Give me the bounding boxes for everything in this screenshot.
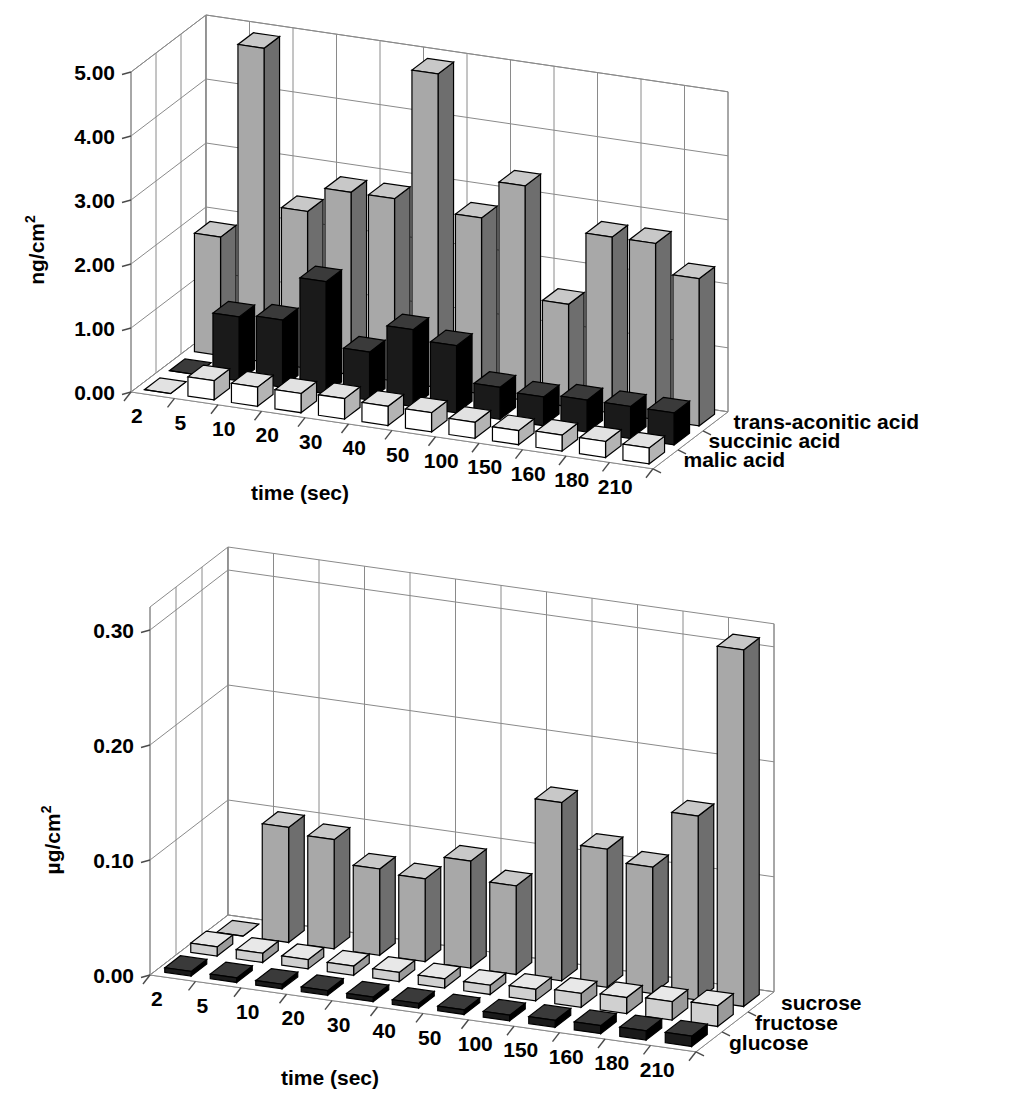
bar-face <box>362 402 388 425</box>
top-xtick-label-text: 150 <box>467 455 502 478</box>
bottom-xtick-label: 180 <box>594 1051 629 1074</box>
bar-face <box>623 444 649 464</box>
bottom-xtick <box>371 1007 378 1016</box>
bar-side <box>516 874 532 975</box>
bar-side <box>326 270 342 394</box>
bar-bottom-sucrose-5 <box>262 812 304 943</box>
bottom-ytick-label: 0.20 <box>93 734 134 757</box>
bar-top-trans-aconitic-acid-100 <box>499 170 541 400</box>
top-xtick-label-text: 10 <box>212 417 235 440</box>
bar-side <box>413 318 429 407</box>
top-ytick-label: 3.00 <box>74 189 115 212</box>
bottom-xtick <box>280 994 287 1003</box>
top-ytick <box>122 136 131 139</box>
top-xtick-label: 150 <box>467 455 502 478</box>
top-xtick-label-text: 100 <box>424 449 459 472</box>
bar-face <box>449 418 475 438</box>
bar-face <box>444 857 470 968</box>
bar-face <box>262 824 288 943</box>
bar-face <box>499 182 525 400</box>
bottom-ytick <box>141 630 150 633</box>
bar-side <box>612 225 628 413</box>
bottom-xtick <box>689 1052 696 1061</box>
bar-face <box>300 278 326 394</box>
bottom-xtick <box>598 1039 605 1048</box>
top-xtick <box>472 443 479 452</box>
bottom-xtick-label-text: 150 <box>503 1038 538 1061</box>
bottom-xtick-label: 30 <box>327 1013 350 1036</box>
bar-side <box>289 815 305 942</box>
bar-face <box>536 431 562 451</box>
bar-bottom-sucrose-10 <box>308 824 350 949</box>
bar-side <box>656 232 672 420</box>
bar-side <box>457 334 473 413</box>
top-xtick-label: 210 <box>598 475 633 498</box>
top-xtick <box>298 418 305 427</box>
bottom-ytick-label: 0.10 <box>93 849 134 872</box>
bottom-yaxis-title: µg/cm2 <box>38 805 64 874</box>
bottom-ytick-label: 0.00 <box>93 964 134 987</box>
bottom-xtick <box>553 1033 560 1042</box>
top-xtick-label: 2 <box>131 404 143 427</box>
bar-face <box>672 812 698 1000</box>
figure-page: 0.001.002.003.004.005.00ng/cm22510203040… <box>0 0 1009 1107</box>
bar-side <box>471 849 487 968</box>
top-ytick-label: 4.00 <box>74 125 115 148</box>
top-xtick-label: 50 <box>386 443 409 466</box>
top-xtick-label: 5 <box>174 411 186 434</box>
bar-face <box>555 990 581 1008</box>
top-yaxis-title: ng/cm2 <box>22 215 48 285</box>
top-xtick-label-text: 160 <box>511 462 546 485</box>
bottom-xtick <box>462 1020 469 1029</box>
bottom-xaxis-title: time (sec) <box>281 1066 379 1089</box>
bar-face <box>231 383 257 406</box>
chart-sugars: 0.000.100.200.30µg/cm2251020304050100150… <box>0 545 1009 1107</box>
bottom-ytick <box>141 860 150 863</box>
bar-side <box>482 206 498 394</box>
top-xtick-label: 160 <box>511 462 546 485</box>
bar-side <box>562 791 578 981</box>
bar-face <box>188 377 214 400</box>
bottom-xtick <box>644 1045 651 1054</box>
top-legend-label: malic acid <box>684 448 786 471</box>
bottom-xtick-label: 210 <box>640 1058 675 1081</box>
top-xaxis-title: time (sec) <box>251 481 349 504</box>
bar-face <box>626 863 652 993</box>
top-xtick-label-text: 180 <box>554 468 589 491</box>
top-xtick-label-text: 40 <box>343 436 366 459</box>
top-xtick <box>603 462 610 471</box>
bottom-xtick-label: 20 <box>282 1006 305 1029</box>
bottom-legend-tick <box>696 1052 704 1056</box>
bottom-xtick-label-text: 50 <box>418 1026 441 1049</box>
top-xtick-label-text: 30 <box>299 430 322 453</box>
top-ytick <box>122 72 131 75</box>
top-xtick-label-text: 2 <box>131 404 143 427</box>
bottom-xtick-label: 150 <box>503 1038 538 1061</box>
bar-bottom-sucrose-40 <box>444 845 486 968</box>
top-ytick-label: 5.00 <box>74 61 115 84</box>
top-xtick-label-text: 50 <box>386 443 409 466</box>
bar-bottom-sucrose-100 <box>535 787 577 981</box>
bottom-xtick-label: 10 <box>236 1000 259 1023</box>
bar-face <box>399 875 425 962</box>
bar-side <box>698 804 714 1000</box>
bottom-ytick-label: 0.30 <box>93 619 134 642</box>
bottom-xtick-label-text: 40 <box>373 1019 396 1042</box>
bottom-legend-label: glucose <box>729 1031 808 1054</box>
bottom-xtick-label-text: 210 <box>640 1058 675 1081</box>
bar-top-succinic-acid-20 <box>300 266 342 394</box>
bottom-xtick-label-text: 10 <box>236 1000 259 1023</box>
bottom-xtick-label: 2 <box>151 987 163 1010</box>
bar-top-trans-aconitic-acid-160 <box>586 221 628 413</box>
bar-face <box>308 836 334 949</box>
bottom-xtick <box>416 1013 423 1022</box>
bottom-xtick-label-text: 160 <box>549 1045 584 1068</box>
bottom-xtick-label-text: 30 <box>327 1013 350 1036</box>
bar-bottom-sucrose-180 <box>672 800 714 1000</box>
bottom-xtick <box>507 1026 514 1035</box>
top-xtick-label: 20 <box>256 423 279 446</box>
bottom-xtick-label: 100 <box>458 1032 493 1055</box>
bar-bottom-sucrose-30 <box>399 863 441 962</box>
top-yaxis-title-text: ng/cm2 <box>22 215 48 285</box>
bottom-xtick-label: 50 <box>418 1026 441 1049</box>
